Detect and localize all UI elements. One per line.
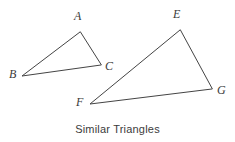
vertex-label-c: C xyxy=(105,60,113,72)
triangles-drawing xyxy=(0,0,235,142)
vertex-label-f: F xyxy=(76,96,83,108)
vertex-label-e: E xyxy=(173,8,180,20)
similar-triangles-figure: A B C E F G Similar Triangles xyxy=(0,0,235,142)
figure-caption: Similar Triangles xyxy=(0,124,235,135)
triangle-abc-outline xyxy=(22,32,101,76)
vertex-label-b: B xyxy=(9,68,16,80)
vertex-label-g: G xyxy=(217,84,226,96)
vertex-label-a: A xyxy=(74,10,81,22)
